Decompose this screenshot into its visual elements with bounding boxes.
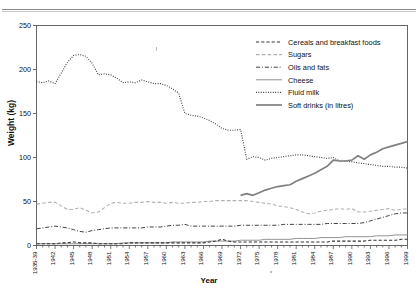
legend-label: Fluid milk — [288, 88, 320, 97]
x-tick-label: 1951 — [105, 251, 112, 265]
scan-speck-2 — [270, 271, 272, 273]
x-tick-label: 1935-39 — [31, 251, 38, 274]
legend-label: Cereals and breakfast foods — [288, 38, 381, 47]
line-chart: 0501001502002501935-39194219451948195119… — [0, 0, 418, 289]
scan-speck-1 — [156, 47, 157, 51]
figure-container: 0501001502002501935-39194219451948195119… — [0, 0, 418, 289]
series-line — [37, 55, 408, 169]
x-tick-label: 1990 — [346, 251, 353, 265]
y-tick-label: 0 — [27, 241, 31, 250]
y-tick-label: 50 — [23, 197, 31, 206]
legend-label: Soft drinks (in litres) — [288, 101, 353, 110]
x-tick-label: 1981 — [290, 251, 297, 265]
x-tick-label: 1978 — [272, 251, 279, 265]
legend-label: Cheese — [288, 76, 313, 85]
y-tick-label: 100 — [19, 153, 31, 162]
series-line — [241, 142, 408, 196]
x-tick-label: 1972 — [235, 251, 242, 265]
x-tick-label: 1948 — [86, 251, 93, 265]
x-tick-label: 1993 — [364, 251, 371, 265]
legend-label: Oils and fats — [288, 63, 329, 72]
x-tick-label: 1996 — [383, 251, 390, 265]
x-tick-label: 1966 — [197, 251, 204, 265]
y-tick-label: 200 — [19, 65, 31, 74]
x-tick-label: 1945 — [68, 251, 75, 265]
y-tick-label: 150 — [19, 109, 31, 118]
x-tick-label: 1960 — [160, 251, 167, 265]
series-line — [37, 213, 408, 232]
x-axis-title: Year — [0, 276, 418, 285]
y-axis-title: Weight (kg) — [6, 93, 16, 153]
x-tick-label: 1999 — [402, 251, 409, 265]
legend-label: Sugars — [288, 50, 312, 59]
x-tick-label: 1954 — [123, 251, 130, 265]
x-tick-label: 1963 — [179, 251, 186, 265]
x-tick-label: 1957 — [142, 251, 149, 265]
x-tick-label: 1987 — [327, 251, 334, 265]
series-line — [37, 201, 408, 214]
series-line — [37, 235, 408, 244]
y-tick-label: 250 — [19, 21, 31, 30]
x-tick-label: 1969 — [216, 251, 223, 265]
x-tick-label: 1984 — [309, 251, 316, 265]
x-tick-label: 1975 — [253, 251, 260, 265]
x-tick-label: 1942 — [49, 251, 56, 265]
